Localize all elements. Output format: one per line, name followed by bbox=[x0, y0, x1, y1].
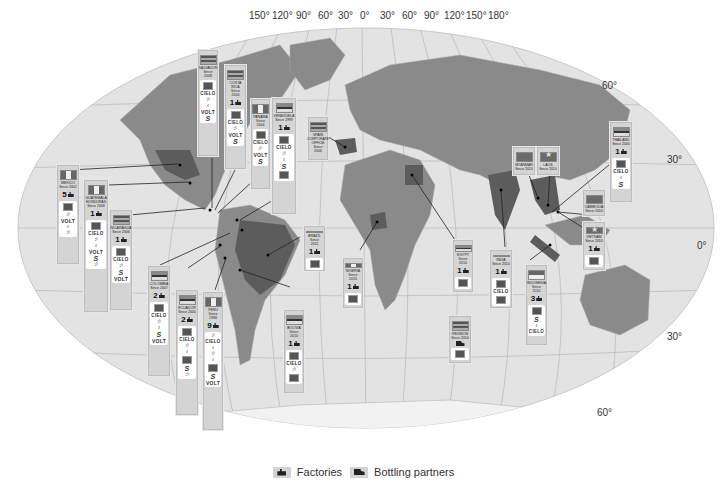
brand-list bbox=[306, 258, 323, 270]
factory-icon bbox=[463, 268, 469, 273]
truck-icon bbox=[350, 467, 368, 478]
card-colombia[interactable]: COLOMBIA Since 2007 2 CIELO ℬ ℓ S VOLT bbox=[148, 266, 170, 376]
factory-count: 1 bbox=[615, 147, 626, 156]
brand-list: S ℓ CIELO bbox=[528, 305, 545, 336]
legend-factories: Factories bbox=[273, 466, 342, 478]
lon-label: 90° bbox=[296, 10, 311, 21]
flag-icon bbox=[276, 103, 293, 113]
factory-count: 1 bbox=[278, 123, 289, 132]
factory-icon bbox=[187, 317, 193, 322]
flag-icon bbox=[455, 245, 472, 252]
brand-logo-icon bbox=[154, 304, 164, 312]
legend-factories-label: Factories bbox=[297, 466, 342, 478]
brand-list bbox=[345, 293, 361, 305]
factory-icon bbox=[159, 293, 165, 298]
lon-label: 30° bbox=[338, 10, 353, 21]
brand-list bbox=[585, 255, 603, 267]
factory-icon bbox=[314, 249, 320, 254]
factory-icon bbox=[284, 125, 290, 130]
brand-list bbox=[455, 277, 471, 289]
brand-logo-icon bbox=[496, 296, 506, 304]
card-spain[interactable]: SPAIN Corporate office Since 2006 bbox=[308, 117, 328, 160]
world-map: 150° 120° 90° 60° 30° 0° 30° 60° 90° 120… bbox=[0, 0, 727, 455]
brand-logo-icon bbox=[91, 222, 101, 230]
lat-label: 60° bbox=[597, 407, 612, 418]
map-legend: Factories Bottling partners bbox=[0, 466, 727, 478]
flag-icon bbox=[310, 122, 327, 132]
brand-script-icon: ℬ bbox=[94, 262, 98, 268]
brand-list: CIELO bbox=[492, 278, 510, 306]
brand-list: ℬ VOLT ℓ ℬ bbox=[59, 201, 77, 237]
card-laos[interactable]: LAOS Since 2010 bbox=[537, 147, 559, 175]
flag-icon bbox=[528, 270, 545, 280]
factory-count: 1 bbox=[115, 235, 126, 244]
card-cambodia[interactable]: CAMBODIA Since 2010 bbox=[583, 190, 605, 216]
lon-label: 150° bbox=[466, 10, 487, 21]
card-myanmar[interactable]: MYANMAR Since 2010 bbox=[513, 147, 535, 175]
lon-label: 120° bbox=[444, 10, 465, 21]
egypt-shape bbox=[405, 165, 423, 185]
lon-label: 150° bbox=[249, 10, 270, 21]
card-ecuador[interactable]: ECUADOR Since 2000 2 CIELO ℬ ℓ S ℬ bbox=[176, 290, 198, 415]
brand-logo-icon bbox=[616, 160, 626, 168]
truck-icon bbox=[456, 341, 465, 346]
brand-list: CIELO ℓ S bbox=[612, 158, 630, 189]
lat-label: 30° bbox=[667, 154, 682, 165]
brand-logo-icon bbox=[116, 248, 126, 256]
card-salvador[interactable]: SALVADOR Since 2008 CIELO ℬ ℓ VOLT S bbox=[198, 50, 218, 156]
card-guatemala-honduras[interactable]: GUATEMALA HONDURAS Since 2008 1 CIELO ℬ … bbox=[84, 180, 108, 312]
card-india[interactable]: INDIA Since 2010 1 CIELO bbox=[490, 250, 512, 308]
brand-list: ℬ CIELO ℓ ℬ ℓ S VOLT bbox=[205, 332, 221, 387]
factory-count: 1 bbox=[495, 267, 506, 276]
nigeria-shape bbox=[370, 212, 387, 230]
brand-logo-icon bbox=[63, 203, 73, 211]
brand-logo-icon bbox=[289, 352, 299, 360]
card-bolivia[interactable]: BOLIVIA Since 2010 1 CIELO ℬ bbox=[284, 310, 304, 393]
brand-logo-icon bbox=[455, 350, 465, 358]
brand-logo-icon bbox=[496, 280, 506, 288]
factory-icon bbox=[96, 211, 102, 216]
flag-icon bbox=[613, 127, 630, 137]
flag-icon bbox=[586, 227, 603, 234]
brand-list: CIELO ℬ VOLT S bbox=[227, 109, 244, 146]
brand-list: CIELO ℬ S VOLT bbox=[112, 246, 130, 283]
card-peru[interactable]: PERU Since 1988 9 ℬ CIELO ℓ ℬ ℓ S VOLT bbox=[203, 292, 223, 430]
brand-script-icon: ℓ bbox=[212, 357, 214, 363]
card-thailand[interactable]: THAILAND Since 2000 1 CIELO ℓ S bbox=[610, 122, 632, 202]
brand-list: CIELO ℬ bbox=[286, 350, 302, 384]
card-reunion[interactable]: REUNION Since 2010 bbox=[449, 316, 471, 363]
brand-logo-icon bbox=[182, 356, 192, 364]
brand-list: CIELO ℬ ℓ S bbox=[274, 134, 294, 181]
brand-script-icon: ℬ bbox=[292, 367, 296, 373]
flag-icon bbox=[586, 195, 603, 204]
antarctica bbox=[80, 400, 650, 440]
brand-logo-icon bbox=[279, 136, 289, 144]
card-vietnam[interactable]: VIETNAM Since 2010 1 bbox=[583, 222, 605, 270]
brand-script-icon: ℬ bbox=[66, 230, 70, 236]
card-egypt[interactable]: EGYPT Since 2010 1 bbox=[453, 240, 473, 292]
brand-logo-icon bbox=[182, 328, 192, 336]
brand-logo-icon bbox=[458, 279, 468, 287]
factory-count: 1 bbox=[588, 244, 599, 253]
brand-logo-icon bbox=[231, 111, 241, 119]
brand-logo-icon bbox=[348, 295, 358, 303]
factory-icon bbox=[294, 341, 300, 346]
lat-label: 0° bbox=[697, 240, 707, 251]
card-venezuela[interactable]: VENEZUELA Since 1999 1 CIELO ℬ ℓ S bbox=[272, 98, 296, 214]
brand-script-icon: ℓ bbox=[186, 349, 188, 355]
brand-list bbox=[451, 348, 469, 360]
card-nigeria[interactable]: NIGERIA Since 2010 1 bbox=[343, 258, 363, 308]
legend-bottling-label: Bottling partners bbox=[374, 466, 454, 478]
card-brazil[interactable]: BRAZIL Since 2011 1 bbox=[304, 226, 325, 271]
card-costa-rica[interactable]: COSTA RICA Since 2004 1 CIELO ℬ VOLT S bbox=[225, 65, 246, 169]
factory-icon bbox=[501, 269, 507, 274]
brand-script-icon: ℬ bbox=[185, 372, 189, 378]
factory-count: 9 bbox=[207, 321, 218, 330]
card-panama[interactable]: PANAMA Since 2004 CIELO ℬ VOLT S bbox=[251, 99, 270, 189]
card-nicaragua[interactable]: NICARAGUA Since 2006 1 CIELO ℬ S VOLT bbox=[110, 210, 132, 310]
flag-icon bbox=[516, 152, 533, 162]
card-mexico[interactable]: MEXICO Since 2002 5 ℬ VOLT ℓ ℬ bbox=[57, 165, 79, 264]
brand-list: CIELO ℬ ℓ S VOLT bbox=[150, 302, 168, 345]
card-indonesia[interactable]: INDONESIA Since 2010 3 S ℓ CIELO bbox=[526, 265, 547, 345]
lat-label: 60° bbox=[602, 80, 617, 91]
